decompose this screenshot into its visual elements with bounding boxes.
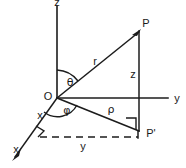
right-angle-markers-group bbox=[36, 118, 136, 137]
rho-label: ρ bbox=[108, 103, 115, 116]
spherical-coordinate-diagram: z y x x O P P' r z ρ y θ φ bbox=[0, 0, 186, 168]
segments-group bbox=[40, 29, 141, 138]
point-P-label: P bbox=[142, 17, 149, 29]
x-axis-label: x bbox=[37, 109, 43, 121]
labels-group: z y x x O P P' r z ρ y θ φ bbox=[13, 0, 180, 155]
phi-angle-label: φ bbox=[63, 104, 70, 117]
y-axis-label: y bbox=[174, 92, 180, 104]
point-P-prime-label: P' bbox=[146, 127, 155, 139]
diagram-canvas: z y x x O P P' r z ρ y θ φ bbox=[0, 0, 186, 168]
height-z-label: z bbox=[130, 68, 136, 80]
right-angle-on-x-axis-marker bbox=[36, 126, 44, 137]
x-axis-line bbox=[15, 98, 57, 157]
theta-angle-label: θ bbox=[67, 76, 74, 89]
origin-label: O bbox=[44, 90, 53, 102]
x-axis-arrow-label: x bbox=[13, 143, 19, 155]
y-component-label: y bbox=[80, 140, 86, 152]
phi-arc bbox=[44, 105, 77, 117]
radius-r-label: r bbox=[93, 55, 97, 67]
z-axis-label: z bbox=[54, 0, 60, 8]
